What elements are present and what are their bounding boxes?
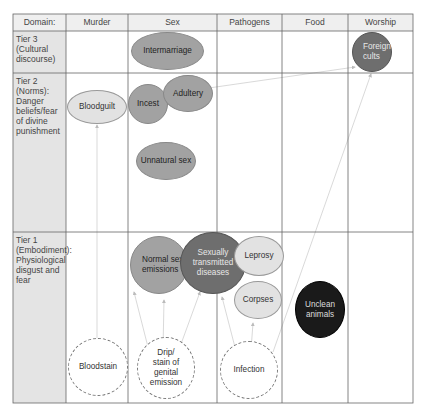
node-unclean-animals: Unclean animals bbox=[295, 281, 345, 338]
tier-3-label: Tier 3 (Cultural discourse) bbox=[16, 34, 66, 64]
node-leprosy: Leprosy bbox=[234, 236, 284, 276]
node-drip-stain-genital-emission: Drip/ stain of genital emission bbox=[137, 337, 195, 399]
disgust-tier-diagram: Domain: Murder Sex Pathogens Food Worshi… bbox=[0, 0, 425, 413]
tier-1-label: Tier 1 (Embodiment): Physiological disgu… bbox=[16, 235, 66, 285]
node-incest: Incest bbox=[128, 84, 168, 124]
node-bloodguilt: Bloodguilt bbox=[67, 90, 127, 124]
node-corpses: Corpses bbox=[234, 281, 282, 319]
header-worship: Worship bbox=[348, 14, 413, 31]
node-intermarriage: Intermarriage bbox=[131, 32, 204, 70]
node-foreign-cults: Foreign cults bbox=[352, 32, 392, 72]
tier-2-label: Tier 2 (Norms): Danger beliefs/fear of d… bbox=[16, 76, 66, 136]
header-sex: Sex bbox=[128, 14, 217, 31]
header-food: Food bbox=[282, 14, 348, 31]
node-unnatural-sex: Unnatural sex bbox=[136, 142, 196, 180]
header-pathogens: Pathogens bbox=[217, 14, 282, 31]
node-infection: Infection bbox=[220, 341, 278, 399]
node-bloodstain: Bloodstain bbox=[68, 338, 128, 396]
header-domain: Domain: bbox=[13, 14, 66, 31]
header-murder: Murder bbox=[66, 14, 128, 31]
node-adultery: Adultery bbox=[163, 75, 213, 112]
